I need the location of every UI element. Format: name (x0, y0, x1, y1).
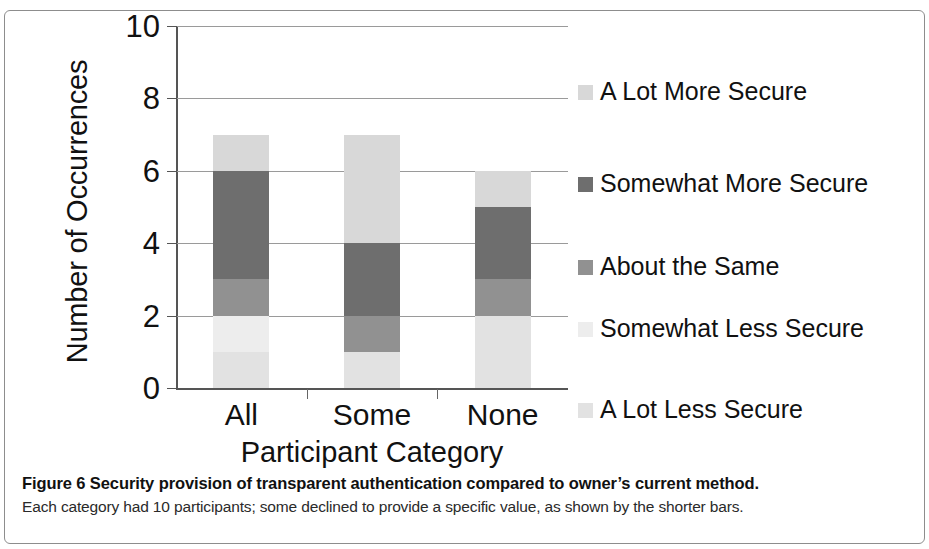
caption-subtitle: Each category had 10 participants; some … (22, 498, 912, 516)
caption-title: Figure 6 Security provision of transpare… (22, 474, 912, 493)
y-tick-label: 6 (143, 155, 160, 186)
legend-label: A Lot More Secure (600, 78, 807, 105)
y-tick-label: 0 (143, 373, 160, 404)
figure-page: Number of Occurrences 0246810 AllSomeNon… (0, 0, 929, 549)
legend-swatch-icon (578, 322, 593, 337)
bar-segment[interactable] (213, 171, 269, 280)
legend-swatch-icon (578, 85, 593, 100)
bar-segment[interactable] (213, 135, 269, 171)
y-tick-label: 10 (126, 11, 160, 42)
bar-segment[interactable] (213, 352, 269, 388)
bar-segment[interactable] (344, 243, 400, 315)
bar-segment[interactable] (213, 279, 269, 315)
legend-label: About the Same (600, 253, 779, 280)
bar-series-group (176, 26, 568, 390)
figure-caption: Figure 6 Security provision of transpare… (22, 474, 912, 516)
bar-segment[interactable] (475, 207, 531, 279)
bar-segment[interactable] (475, 171, 531, 207)
y-axis-title: Number of Occurrences (61, 47, 94, 377)
chart-figure: Number of Occurrences 0246810 AllSomeNon… (0, 0, 929, 462)
legend-label: A Lot Less Secure (600, 396, 803, 423)
bar-segment[interactable] (475, 316, 531, 388)
y-tick-label: 2 (143, 300, 160, 331)
bar-segment[interactable] (475, 279, 531, 315)
bar-segment[interactable] (213, 316, 269, 352)
legend-item[interactable]: A Lot More Secure (578, 78, 807, 105)
bar-segment[interactable] (344, 135, 400, 244)
bar-column[interactable] (213, 135, 269, 388)
y-tick-label: 8 (143, 83, 160, 114)
legend-item[interactable]: A Lot Less Secure (578, 396, 803, 423)
x-tick-label: Some (312, 398, 432, 432)
legend-swatch-icon (578, 403, 593, 418)
x-axis-tick-labels: AllSomeNone (176, 398, 568, 438)
y-tick-label: 4 (143, 228, 160, 259)
bar-segment[interactable] (344, 352, 400, 388)
legend-item[interactable]: About the Same (578, 253, 779, 280)
legend-label: Somewhat More Secure (600, 170, 868, 197)
bar-column[interactable] (344, 135, 400, 388)
legend-item[interactable]: Somewhat Less Secure (578, 315, 864, 342)
legend-swatch-icon (578, 260, 593, 275)
x-tick-label: All (181, 398, 301, 432)
legend-swatch-icon (578, 177, 593, 192)
y-axis-tick-labels: 0246810 (96, 22, 168, 390)
legend-label: Somewhat Less Secure (600, 315, 864, 342)
plot-area (176, 26, 568, 390)
legend-item[interactable]: Somewhat More Secure (578, 170, 868, 197)
bar-segment[interactable] (344, 316, 400, 352)
x-tick-label: None (443, 398, 563, 432)
x-axis-title: Participant Category (176, 436, 568, 469)
bar-column[interactable] (475, 171, 531, 388)
